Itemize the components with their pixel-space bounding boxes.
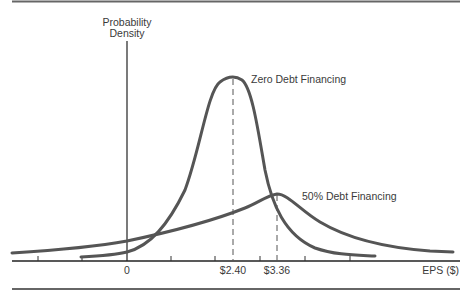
x-axis-label: EPS ($) (422, 264, 459, 276)
x-tick-2-40: $2.40 (220, 264, 246, 276)
x-tick-zero: 0 (124, 264, 130, 276)
curve-zero-debt (81, 77, 375, 257)
annotation-50pct-debt: 50% Debt Financing (302, 190, 397, 202)
eps-distribution-chart: Probability Density 0 $2.40 $3.36 EPS ($… (0, 0, 473, 292)
annotation-zero-debt: Zero Debt Financing (251, 73, 346, 85)
x-tick-3-36: $3.36 (264, 264, 290, 276)
y-axis-label-line2: Density (109, 27, 145, 39)
